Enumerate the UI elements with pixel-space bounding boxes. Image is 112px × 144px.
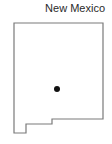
state-outline — [14, 23, 103, 133]
state-map — [0, 0, 112, 144]
location-marker-dot — [54, 86, 60, 92]
